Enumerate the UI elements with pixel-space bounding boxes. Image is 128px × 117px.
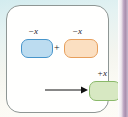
diagram-card: −x + −x +x [6,5,109,113]
orange-box-label: −x [72,27,82,36]
plus-operator: + [54,43,60,53]
diagram-canvas: −x + −x +x [0,0,128,117]
page-edge-band [121,0,128,117]
right-arrow-icon [45,84,89,96]
node-box-orange[interactable] [64,39,98,58]
green-box-label: +x [97,69,107,78]
node-box-blue[interactable] [21,39,53,58]
blue-box-label: −x [28,27,38,36]
node-box-green[interactable] [89,81,121,101]
